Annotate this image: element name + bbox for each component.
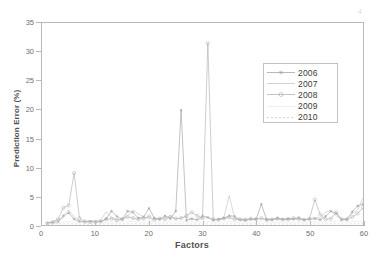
legend-item-2009[interactable]: 2009 bbox=[264, 101, 337, 112]
y-tick-label: 30 bbox=[8, 47, 34, 56]
legend-label: 2009 bbox=[298, 101, 318, 111]
legend: 20062007200820092010 bbox=[263, 63, 338, 123]
legend-swatch-2010 bbox=[264, 112, 298, 123]
x-tick-label: 10 bbox=[91, 229, 99, 238]
x-tick-label: 40 bbox=[252, 229, 260, 238]
legend-item-2010[interactable]: 2010 bbox=[264, 112, 337, 123]
legend-item-2008[interactable]: 2008 bbox=[264, 89, 337, 100]
y-tick-label: 0 bbox=[8, 222, 34, 231]
legend-swatch-2008 bbox=[264, 89, 298, 100]
y-tick-label: 35 bbox=[8, 18, 34, 27]
figure: 05101520253035 0102030405060 Factors Pre… bbox=[0, 0, 384, 270]
x-tick-mark bbox=[256, 221, 257, 226]
x-tick-label: 0 bbox=[39, 229, 43, 238]
x-tick-mark bbox=[41, 221, 42, 226]
legend-label: 2008 bbox=[298, 90, 318, 100]
data-point-marker bbox=[164, 214, 167, 217]
y-tick-mark bbox=[36, 226, 41, 227]
y-tick-label: 5 bbox=[8, 192, 34, 201]
legend-item-2006[interactable]: 2006 bbox=[264, 67, 337, 78]
x-tick-mark bbox=[310, 221, 311, 226]
x-tick-label: 60 bbox=[360, 229, 368, 238]
x-tick-label: 20 bbox=[144, 229, 152, 238]
legend-swatch-2009 bbox=[264, 101, 298, 112]
plot-area bbox=[41, 22, 364, 226]
data-point-marker bbox=[180, 109, 183, 112]
y-axis-label: Prediction Error (%) bbox=[12, 69, 21, 189]
scan-artifact: 4 bbox=[358, 8, 368, 15]
legend-label: 2010 bbox=[298, 112, 318, 122]
legend-item-2007[interactable]: 2007 bbox=[264, 78, 337, 89]
series-canvas bbox=[42, 23, 363, 225]
x-tick-mark bbox=[203, 221, 204, 226]
x-tick-label: 30 bbox=[198, 229, 206, 238]
data-point-marker bbox=[260, 203, 263, 206]
x-tick-label: 50 bbox=[306, 229, 314, 238]
legend-swatch-2006 bbox=[264, 67, 298, 78]
x-tick-mark bbox=[364, 221, 365, 226]
legend-label: 2006 bbox=[298, 68, 318, 78]
x-tick-mark bbox=[95, 221, 96, 226]
x-axis-label: Factors bbox=[0, 240, 384, 250]
legend-label: 2007 bbox=[298, 79, 318, 89]
legend-swatch-2007 bbox=[264, 78, 298, 89]
x-tick-mark bbox=[149, 221, 150, 226]
series-2006 bbox=[46, 109, 363, 225]
